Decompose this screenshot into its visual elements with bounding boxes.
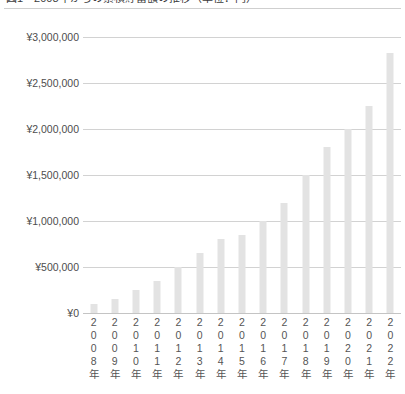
bar[interactable]: [323, 147, 330, 313]
x-axis-tick-label: 2016年: [253, 316, 274, 381]
x-axis-tick-label: 2009年: [104, 316, 125, 381]
bar-slot: [253, 37, 274, 313]
title-divider: [4, 8, 401, 9]
y-axis-tick-label: ¥2,500,000: [3, 78, 79, 88]
bar-slot: [274, 37, 295, 313]
bar-series: [83, 37, 401, 313]
y-axis-tick-label: ¥500,000: [3, 262, 79, 272]
bar-slot: [104, 37, 125, 313]
bar-slot: [147, 37, 168, 313]
bar[interactable]: [260, 221, 267, 313]
y-axis-tick-label: ¥2,000,000: [3, 124, 79, 134]
chart-title: 図1 2008年からの累積貯蓄額の推移（単位：円）: [6, 0, 401, 5]
x-axis: 2008年2009年2010年2011年2012年2013年2014年2015年…: [83, 316, 401, 394]
y-axis-tick-label: ¥0: [3, 308, 79, 318]
bar-slot: [231, 37, 252, 313]
chart-page: 図1 2008年からの累積貯蓄額の推移（単位：円） ¥3,000,000¥2,5…: [0, 0, 405, 394]
bar-slot: [337, 37, 358, 313]
bar[interactable]: [175, 267, 182, 313]
bar[interactable]: [302, 175, 309, 313]
bar[interactable]: [154, 281, 161, 313]
y-axis: ¥3,000,000¥2,500,000¥2,000,000¥1,500,000…: [0, 37, 79, 313]
bar[interactable]: [238, 235, 245, 313]
x-axis-tick-label: 2013年: [189, 316, 210, 381]
bar-slot: [210, 37, 231, 313]
x-axis-tick-label: 2008年: [83, 316, 104, 381]
x-axis-tick-label: 2021年: [359, 316, 380, 381]
bar[interactable]: [387, 53, 394, 313]
bar-slot: [380, 37, 401, 313]
y-axis-tick-label: ¥1,000,000: [3, 216, 79, 226]
axis-baseline: [83, 313, 401, 314]
y-axis-tick-label: ¥3,000,000: [3, 32, 79, 42]
bar[interactable]: [132, 290, 139, 313]
x-axis-tick-label: 2018年: [295, 316, 316, 381]
y-axis-tick-label: ¥1,500,000: [3, 170, 79, 180]
x-axis-tick-label: 2017年: [274, 316, 295, 381]
bar[interactable]: [281, 203, 288, 313]
bar[interactable]: [366, 106, 373, 313]
x-axis-tick-label: 2012年: [168, 316, 189, 381]
x-axis-tick-label: 2011年: [147, 316, 168, 381]
bar-slot: [316, 37, 337, 313]
x-axis-tick-label: 2015年: [231, 316, 252, 381]
bar[interactable]: [111, 299, 118, 313]
x-axis-tick-label: 2014年: [210, 316, 231, 381]
x-axis-tick-label: 2010年: [125, 316, 146, 381]
x-axis-tick-label: 2019年: [316, 316, 337, 381]
bar-slot: [125, 37, 146, 313]
bar[interactable]: [217, 239, 224, 313]
bar[interactable]: [90, 304, 97, 313]
x-axis-tick-label: 2022年: [380, 316, 401, 381]
bar-slot: [359, 37, 380, 313]
bar-slot: [295, 37, 316, 313]
bar-slot: [83, 37, 104, 313]
bar[interactable]: [344, 129, 351, 313]
bar-slot: [168, 37, 189, 313]
bar[interactable]: [196, 253, 203, 313]
bar-slot: [189, 37, 210, 313]
x-axis-tick-label: 2020年: [337, 316, 358, 381]
